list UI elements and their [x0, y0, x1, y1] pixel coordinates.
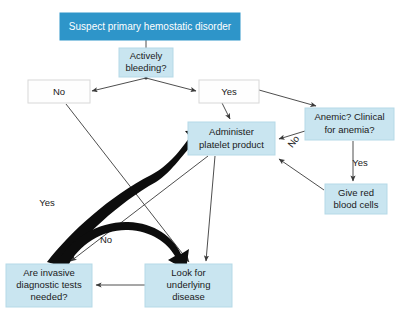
node-anemic-line1: Anemic? Clinical [314, 111, 384, 122]
edge-yes-to-administer [222, 103, 230, 119]
edge-administer-to-look-underlying [206, 156, 215, 261]
node-look-for-underlying-disease[interactable]: Look for underlying disease [145, 264, 232, 307]
edge-label-no-invasive: No [100, 234, 112, 245]
node-give-red-blood-cells[interactable]: Give red blood cells [325, 184, 387, 214]
node-invasive-line2: diagnostic tests [16, 279, 82, 290]
node-actively-bleeding-line2: bleeding? [125, 62, 166, 73]
node-yes-bleeding[interactable]: Yes [199, 80, 259, 103]
node-rbc-line1: Give red [338, 187, 374, 198]
node-rbc-line2: blood cells [334, 199, 379, 210]
flowchart-svg: Suspect primary hemostatic disorder Acti… [0, 0, 398, 322]
node-administer-platelet-product[interactable]: Administer platelet product [188, 122, 275, 155]
node-no-bleeding-label: No [53, 86, 65, 97]
node-anemic-clinical[interactable]: Anemic? Clinical for anemia? [305, 108, 394, 140]
node-look-underlying-line2: underlying [167, 279, 211, 290]
node-suspect-label: Suspect primary hemostatic disorder [69, 21, 232, 32]
node-look-underlying-line3: disease [172, 291, 205, 302]
node-actively-bleeding-line1: Actively [130, 50, 163, 61]
node-invasive-line3: needed? [31, 291, 68, 302]
node-no-bleeding[interactable]: No [28, 80, 90, 103]
edge-label-yes-anemic: Yes [352, 157, 368, 168]
node-administer-line1: Administer [209, 126, 254, 137]
edge-administer-to-invasive [71, 156, 208, 261]
edge-label-yes-invasive: Yes [39, 197, 55, 208]
edge-rbc-to-administer [279, 159, 324, 190]
node-invasive-line1: Are invasive [23, 267, 75, 278]
node-yes-bleeding-label: Yes [221, 86, 237, 97]
node-invasive-diagnostic-tests[interactable]: Are invasive diagnostic tests needed? [6, 264, 92, 307]
node-look-underlying-line1: Look for [171, 267, 205, 278]
edge-bleeding-to-no [92, 78, 146, 91]
node-administer-line2: platelet product [199, 139, 264, 150]
edge-label-no-anemic: No [285, 133, 301, 149]
edge-yes-to-anemic [259, 90, 316, 106]
node-anemic-line2: for anemia? [324, 124, 374, 135]
edge-bleeding-to-yes [146, 78, 196, 91]
node-suspect-primary-hemostatic-disorder[interactable]: Suspect primary hemostatic disorder [60, 13, 240, 40]
edges-layer [47, 40, 353, 285]
node-actively-bleeding[interactable]: Actively bleeding? [119, 48, 173, 77]
flowchart-canvas: Suspect primary hemostatic disorder Acti… [0, 0, 398, 322]
